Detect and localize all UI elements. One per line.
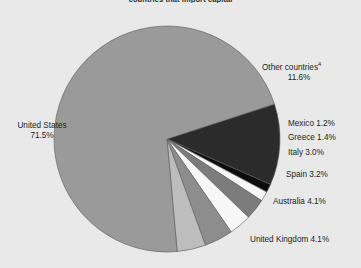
label-other-countries: Other countries4 11.6% [262, 63, 361, 83]
label-other-countries-value: 11.6% [262, 73, 336, 83]
label-united-states-value: 71.5% [30, 131, 53, 140]
label-spain: Spain 3.2% [286, 170, 328, 180]
label-united-kingdom: United Kingdom 4.1% [250, 235, 329, 245]
label-greece: Greece 1.4% [288, 133, 336, 143]
pie-chart-figure: countries that import capital Other coun… [0, 0, 361, 268]
label-italy: Italy 3.0% [288, 148, 324, 158]
label-other-countries-footnote: 4 [318, 61, 321, 67]
label-australia: Australia 4.1% [273, 197, 326, 207]
label-other-countries-name: Other countries [262, 63, 318, 72]
label-united-states-name: United States [17, 121, 66, 130]
label-mexico: Mexico 1.2% [288, 119, 335, 129]
label-united-states: United States 71.5% [6, 121, 78, 141]
pie-slice-group [54, 26, 280, 252]
